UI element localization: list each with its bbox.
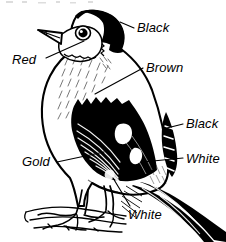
label-white-tail: White xyxy=(186,152,220,165)
label-black-wing: Black xyxy=(186,117,218,130)
label-white-belly: White xyxy=(128,208,162,221)
scan-artifact xyxy=(6,1,93,4)
label-gold: Gold xyxy=(22,155,50,168)
label-black-head: Black xyxy=(137,21,169,34)
label-brown: Brown xyxy=(146,61,183,74)
eye xyxy=(76,26,91,40)
label-red: Red xyxy=(12,53,36,66)
beak xyxy=(38,30,62,44)
bird-diagram: Black Red Brown Black White Gold White xyxy=(0,0,226,242)
